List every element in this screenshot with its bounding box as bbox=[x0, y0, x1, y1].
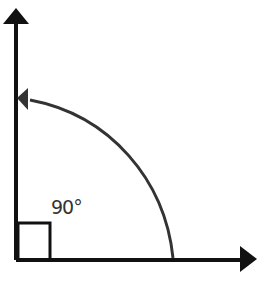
right-angle-diagram bbox=[0, 0, 257, 292]
arrow-right-icon bbox=[240, 246, 257, 272]
angle-label: 90° bbox=[51, 196, 82, 218]
arc-arrowhead-icon bbox=[17, 88, 28, 110]
right-angle-marker bbox=[18, 223, 50, 260]
arrow-up-icon bbox=[3, 8, 29, 24]
horizontal-ray bbox=[16, 246, 257, 272]
angle-arc bbox=[17, 88, 173, 258]
